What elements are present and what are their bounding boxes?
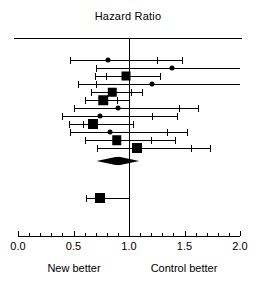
ci-cap xyxy=(74,105,75,112)
confidence-interval-line xyxy=(86,198,129,199)
ci-cap xyxy=(191,145,192,152)
study-estimate-square[interactable] xyxy=(95,193,105,203)
ci-cap xyxy=(91,89,92,96)
study-estimate-square[interactable] xyxy=(112,135,122,145)
x-axis-minor-tick xyxy=(162,233,163,236)
ci-cap xyxy=(152,113,153,120)
ci-cap xyxy=(70,57,71,64)
x-axis-major-tick xyxy=(74,231,75,236)
ci-cap xyxy=(177,113,178,120)
footer-right-label: Control better xyxy=(151,262,218,274)
study-estimate-square[interactable] xyxy=(99,95,109,105)
x-axis-line xyxy=(18,236,240,237)
x-axis-minor-tick xyxy=(40,233,41,236)
x-axis-minor-tick xyxy=(173,233,174,236)
ci-cap xyxy=(62,113,63,120)
x-axis-minor-tick xyxy=(151,233,152,236)
x-axis-major-tick xyxy=(185,231,186,236)
x-axis-tick-label: 0.5 xyxy=(66,240,81,252)
x-axis-tick-label: 2.0 xyxy=(232,240,247,252)
ci-cap xyxy=(198,105,199,112)
confidence-interval-line xyxy=(62,116,176,117)
x-axis-minor-tick xyxy=(85,233,86,236)
x-axis-major-tick xyxy=(18,231,19,236)
study-estimate-circle[interactable] xyxy=(98,114,103,119)
study-estimate-circle[interactable] xyxy=(170,66,175,71)
ci-cap xyxy=(210,145,211,152)
x-axis-tick-label: 1.5 xyxy=(177,240,192,252)
x-axis-minor-tick xyxy=(218,233,219,236)
study-estimate-circle[interactable] xyxy=(115,106,120,111)
null-effect-line xyxy=(129,38,130,236)
x-axis-minor-tick xyxy=(207,233,208,236)
ci-cap xyxy=(85,137,86,144)
ci-cap xyxy=(182,57,183,64)
ci-cap xyxy=(151,137,152,144)
ci-cap xyxy=(179,105,180,112)
x-axis-minor-tick xyxy=(140,233,141,236)
study-estimate-square[interactable] xyxy=(108,88,117,97)
confidence-interval-line xyxy=(78,84,240,85)
ci-cap xyxy=(167,129,168,136)
x-axis-major-tick xyxy=(240,231,241,236)
x-axis-minor-tick xyxy=(229,233,230,236)
ci-cap xyxy=(85,97,86,104)
ci-cap xyxy=(117,97,118,104)
x-axis-minor-tick xyxy=(118,233,119,236)
study-estimate-circle[interactable] xyxy=(105,58,110,63)
x-axis-minor-tick xyxy=(196,233,197,236)
ci-cap xyxy=(131,89,132,96)
ci-cap xyxy=(96,65,97,72)
confidence-interval-line xyxy=(91,92,142,93)
x-axis-minor-tick xyxy=(29,233,30,236)
ci-cap xyxy=(187,129,188,136)
ci-cap xyxy=(106,73,107,80)
study-estimate-square[interactable] xyxy=(132,143,142,153)
top-rule xyxy=(14,38,242,39)
ci-cap xyxy=(96,81,97,88)
study-estimate-square[interactable] xyxy=(88,119,98,129)
ci-cap xyxy=(70,129,71,136)
ci-cap xyxy=(133,121,134,128)
confidence-interval-line xyxy=(97,148,210,149)
ci-cap xyxy=(95,73,96,80)
chart-title: Hazard Ratio xyxy=(0,10,256,22)
x-axis-minor-tick xyxy=(107,233,108,236)
ci-cap xyxy=(86,195,87,202)
x-axis-minor-tick xyxy=(62,233,63,236)
study-estimate-circle[interactable] xyxy=(108,130,113,135)
ci-cap xyxy=(69,121,70,128)
footer-left-label: New better xyxy=(47,262,100,274)
x-axis-tick-label: 0.0 xyxy=(10,240,25,252)
summary-diamond[interactable] xyxy=(97,157,140,166)
ci-cap xyxy=(142,89,143,96)
summary-diamond-shape xyxy=(97,157,140,166)
confidence-interval-line xyxy=(70,60,182,61)
ci-cap xyxy=(78,81,79,88)
study-estimate-circle[interactable] xyxy=(150,82,155,87)
ci-cap xyxy=(97,145,98,152)
x-axis-tick-label: 1.0 xyxy=(121,240,136,252)
ci-cap xyxy=(160,73,161,80)
ci-cap xyxy=(83,121,84,128)
x-axis-minor-tick xyxy=(51,233,52,236)
ci-cap xyxy=(157,57,158,64)
ci-cap xyxy=(175,137,176,144)
confidence-interval-line xyxy=(96,68,240,69)
confidence-interval-line xyxy=(69,124,133,125)
forest-plot: Hazard Ratio 0.00.51.01.52.0 New better … xyxy=(0,0,256,283)
x-axis-minor-tick xyxy=(96,233,97,236)
